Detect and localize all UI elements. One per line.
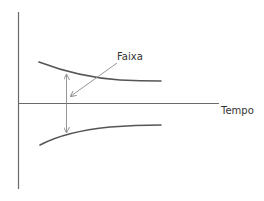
band-over-time-diagram [0, 0, 264, 201]
x-axis-label: Tempo [221, 106, 254, 116]
lower-bound-curve [40, 125, 161, 145]
upper-bound-curve [39, 62, 161, 81]
band-label: Faixa [117, 52, 143, 62]
